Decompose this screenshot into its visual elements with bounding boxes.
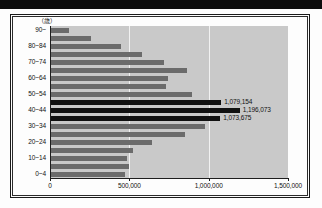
bar-70~74 [50,60,164,65]
x-tick-1000000 [209,178,210,181]
x-axis-line [50,178,289,179]
data-label-40~44: 1,196,073 [243,106,271,113]
bar-30~34 [50,124,205,129]
bar-90~ [50,28,69,33]
bar-65~69 [50,68,187,73]
x-tick-500000 [129,178,130,181]
y-tick-label-0~4: 0~4 [4,170,46,177]
y-tick-label-60~64: 60~64 [4,74,46,81]
x-tick-1500000 [288,178,289,181]
bar-55~59 [50,84,166,89]
data-label-35~39: 1,073,675 [223,114,251,121]
x-tick-label-0: 0 [22,182,78,189]
y-tick-label-20~24: 20~24 [4,138,46,145]
bar-50~54 [50,92,192,97]
y-tick-label-50~54: 50~54 [4,90,46,97]
bar-15~19 [50,148,133,153]
bar-25~29 [50,132,185,137]
bar-20~24 [50,140,152,145]
x-tick-label-1500000: 1,500,000 [260,182,316,189]
bar-5~9 [50,164,129,169]
bar-45~49 [50,100,221,105]
y-tick-label-90~: 90~ [4,26,46,33]
y-tick-label-80~84: 80~84 [4,42,46,49]
y-tick-label-10~14: 10~14 [4,154,46,161]
bar-10~14 [50,156,127,161]
y-axis-line [50,26,51,179]
y-tick-label-70~74: 70~74 [4,58,46,65]
plot-area [50,26,288,178]
bar-35~39 [50,116,220,121]
bar-85~89 [50,36,91,41]
x-tick-label-500000: 500,000 [101,182,157,189]
x-tick-0 [50,178,51,181]
y-tick-label-30~34: 30~34 [4,122,46,129]
bar-80~84 [50,44,121,49]
population-bar-chart: （歳） （人） 90~80~8470~7460~6450~5440~4430~3… [0,0,322,208]
data-label-45~49: 1,079,154 [224,98,252,105]
bar-0~4 [50,172,125,177]
y-axis-unit-label: （歳） [38,16,56,25]
y-tick-label-40~44: 40~44 [4,106,46,113]
bar-40~44 [50,108,240,113]
bar-60~64 [50,76,168,81]
bar-75~79 [50,52,142,57]
x-tick-label-1000000: 1,000,000 [181,182,237,189]
